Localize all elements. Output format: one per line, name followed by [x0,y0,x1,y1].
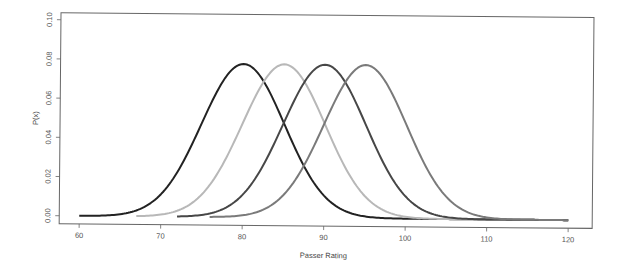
density-curve [136,63,569,220]
x-tick-label: 120 [562,235,575,244]
x-tick-label: 80 [238,232,246,241]
x-tick-label: 90 [319,233,327,242]
plot-group: 0.000.020.040.060.080.10 607080901001101… [30,12,594,262]
density-curve [79,63,569,221]
density-chart: 0.000.020.040.060.080.10 607080901001101… [0,0,620,274]
density-curve [177,63,570,220]
x-tick-label: 110 [481,234,493,243]
x-axis: 60708090100110120 [75,224,575,244]
y-tick-label: 0.08 [45,51,54,66]
x-tick-label: 70 [156,232,164,241]
x-tick-label: 60 [75,231,83,240]
y-axis: 0.000.020.040.060.080.10 [43,12,61,223]
x-tick-label: 100 [399,234,412,243]
x-axis-title: Passer Rating [300,251,347,260]
y-tick-label: 0.02 [44,169,53,184]
y-tick-label: 0.00 [43,208,52,223]
y-tick-label: 0.04 [44,130,53,145]
curves [79,63,569,221]
y-axis-title: P(x) [31,111,40,125]
density-curve [210,64,570,220]
y-tick-label: 0.10 [45,12,54,27]
y-tick-label: 0.06 [44,91,53,106]
